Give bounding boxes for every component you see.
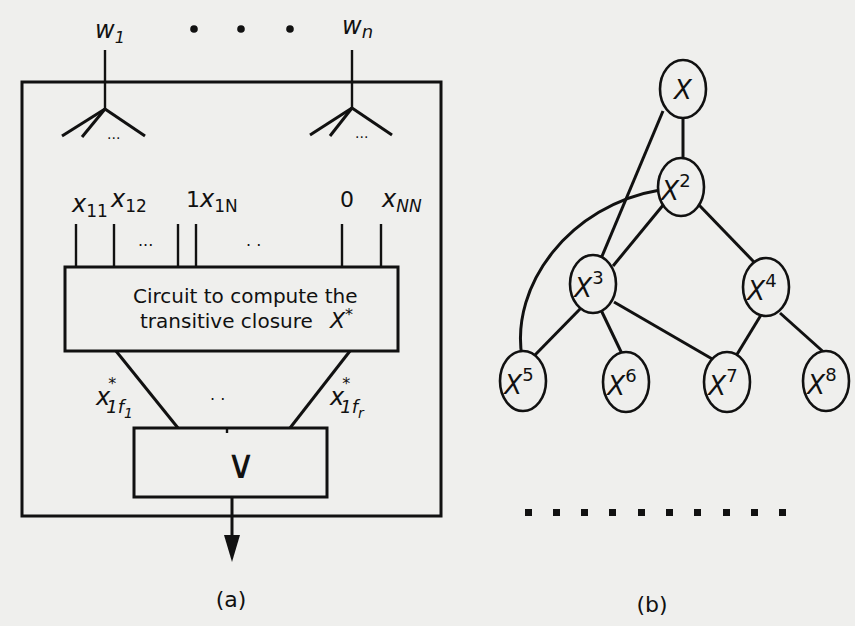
- figure: w1 wn ... ... x11 x12 1x1N: [0, 0, 855, 626]
- graph-node-x3: X3: [570, 255, 616, 313]
- svg-text:X: X: [672, 75, 693, 105]
- graph-node-x7: X7: [704, 352, 750, 412]
- fan-ellipsis-n: ...: [355, 125, 368, 141]
- fan-ellipsis-1: ...: [107, 126, 120, 142]
- graph-node-x8: X8: [803, 351, 849, 411]
- caption-a: (a): [216, 587, 247, 612]
- output-arrow-icon: [224, 497, 240, 562]
- top-ellipsis-dots: [190, 25, 294, 33]
- outputs-ellipsis: . .: [210, 385, 225, 404]
- matrix-input-lines: [76, 224, 381, 267]
- or-symbol: ∨: [226, 441, 255, 487]
- graph-node-x2: X2: [658, 158, 704, 216]
- matrix-ellipsis-2: . .: [246, 231, 261, 250]
- graph-node-x6: X6: [603, 352, 649, 412]
- continuation-dots: [525, 509, 786, 516]
- matrix-ellipsis-1: ...: [138, 231, 153, 250]
- graph-node-x1: X: [660, 60, 706, 118]
- circuit-box-line1: Circuit to compute the: [133, 284, 358, 308]
- graph-node-x5: X5: [500, 351, 546, 411]
- figure-a-circuit: w1 wn ... ... x11 x12 1x1N: [22, 12, 441, 612]
- input-x1N-label: 1x1N: [186, 185, 238, 216]
- input-x12-label: x12: [110, 185, 147, 216]
- input-wn-label: wn: [342, 12, 373, 42]
- caption-b: (b): [636, 592, 667, 617]
- input-zero-label: 0: [340, 187, 354, 212]
- input-xNN-label: xNN: [381, 185, 422, 216]
- figure-b-graph: X X2 X3 X4 X5 X6 X7 X8: [500, 60, 849, 617]
- circuit-box-symbol: X*: [329, 305, 353, 333]
- graph-edges: [520, 111, 828, 360]
- fanout-w1: ...: [62, 50, 145, 142]
- circuit-box-line2: transitive closure: [140, 309, 313, 333]
- fanout-wn: ...: [310, 50, 392, 141]
- output-label-r: x*1fr: [329, 374, 365, 421]
- input-w1-label: w1: [95, 16, 125, 47]
- output-label-1: x*1f1: [95, 374, 133, 421]
- graph-node-x4: X4: [743, 258, 789, 316]
- input-x11-label: x11: [71, 190, 108, 221]
